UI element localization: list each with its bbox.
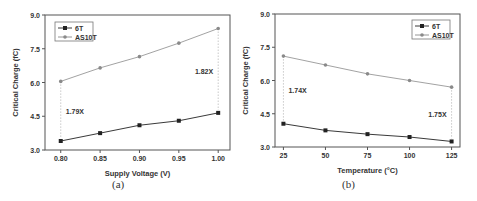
y-tick-label: 3.0: [30, 147, 40, 154]
circle-marker: [282, 54, 286, 58]
y-axis-label: Critical Charge (fC): [241, 46, 250, 115]
legend-label-as10t: AS10T: [75, 34, 98, 41]
square-marker: [450, 139, 454, 143]
circle-marker: [324, 63, 328, 67]
y-tick-label: 6.0: [260, 78, 270, 85]
y-tick-label: 7.5: [260, 44, 270, 51]
legend-circle-icon: [63, 35, 67, 39]
circle-marker: [216, 27, 220, 31]
ratio-annotation: 1.82X: [195, 68, 214, 75]
square-marker: [59, 139, 63, 143]
square-marker: [177, 119, 181, 123]
x-tick-label: 125: [446, 152, 458, 159]
x-tick-label: 0.80: [54, 155, 68, 162]
ratio-annotation: 1.75X: [428, 111, 447, 118]
circle-marker: [177, 41, 181, 45]
x-tick-label: 0.95: [172, 155, 186, 162]
y-tick-label: 9.0: [260, 11, 270, 18]
x-tick-label: 1.00: [211, 155, 225, 162]
x-axis-label: Temperature (°C): [337, 166, 398, 175]
y-tick-label: 7.5: [30, 46, 40, 53]
square-marker: [98, 131, 102, 135]
y-tick-label: 6.0: [30, 80, 40, 87]
square-marker: [216, 111, 220, 115]
circle-marker: [98, 66, 102, 70]
y-tick-label: 3.0: [260, 144, 270, 151]
x-tick-label: 25: [280, 152, 288, 159]
square-marker: [137, 123, 141, 127]
y-tick-label: 9.0: [30, 12, 40, 19]
ratio-annotation: 1.74X: [288, 87, 307, 94]
legend-label-as10t: AS10T: [432, 32, 455, 39]
legend-circle-icon: [420, 33, 424, 37]
square-marker: [323, 128, 327, 132]
series-line-as10t: [283, 56, 451, 87]
panel-caption-b: (b): [342, 178, 355, 190]
x-tick-label: 50: [322, 152, 330, 159]
circle-marker: [408, 79, 412, 83]
chart-panel-a: 3.04.56.07.59.00.800.850.900.951.00Suppl…: [0, 0, 240, 201]
y-tick-label: 4.5: [260, 111, 270, 118]
chart-panel-b: 3.04.56.07.59.0255075100125Temperature (…: [240, 0, 477, 201]
legend-label-6t: 6T: [75, 25, 84, 32]
circle-marker: [138, 55, 142, 59]
x-tick-label: 0.85: [93, 155, 107, 162]
circle-marker: [59, 80, 63, 84]
x-tick-label: 75: [364, 152, 372, 159]
x-tick-label: 0.90: [133, 155, 147, 162]
square-marker: [408, 135, 412, 139]
square-marker: [366, 132, 370, 136]
legend-square-icon: [63, 26, 67, 30]
x-tick-label: 100: [404, 152, 416, 159]
x-axis-label: Supply Voltage (V): [105, 169, 171, 178]
legend-label-6t: 6T: [432, 23, 441, 30]
circle-marker: [450, 85, 454, 89]
ratio-annotation: 1.79X: [66, 108, 85, 115]
y-axis-label: Critical Charge (fC): [11, 48, 20, 117]
legend-square-icon: [420, 24, 424, 28]
circle-marker: [366, 72, 370, 76]
y-tick-label: 4.5: [30, 113, 40, 120]
temperature-chart: 3.04.56.07.59.0255075100125Temperature (…: [240, 0, 477, 201]
square-marker: [281, 122, 285, 126]
voltage-chart: 3.04.56.07.59.00.800.850.900.951.00Suppl…: [0, 0, 240, 201]
panel-caption-a: (a): [112, 178, 124, 190]
